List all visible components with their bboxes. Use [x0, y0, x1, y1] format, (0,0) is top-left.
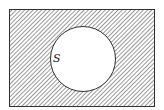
set-s-label: S	[53, 52, 61, 65]
venn-diagram: S	[0, 0, 164, 110]
